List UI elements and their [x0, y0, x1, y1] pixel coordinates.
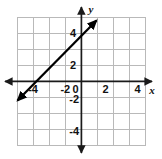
coordinate-plane-figure: -4 -2 0 2 4 4 2 -2 -4 x y — [0, 0, 162, 159]
y-tick-label-neg4: -4 — [69, 125, 80, 137]
y-tick-label-pos4: 4 — [70, 27, 77, 39]
coordinate-plane-chart: -4 -2 0 2 4 4 2 -2 -4 x y — [0, 0, 162, 159]
x-tick-label-pos4: 4 — [134, 83, 141, 95]
x-tick-label-pos2: 2 — [102, 83, 108, 95]
x-axis-label: x — [148, 84, 155, 96]
y-tick-label-pos2: 2 — [70, 59, 76, 71]
y-tick-label-neg2: -2 — [69, 93, 79, 105]
y-axis-label: y — [87, 3, 94, 15]
x-tick-label-neg4: -4 — [28, 83, 39, 95]
